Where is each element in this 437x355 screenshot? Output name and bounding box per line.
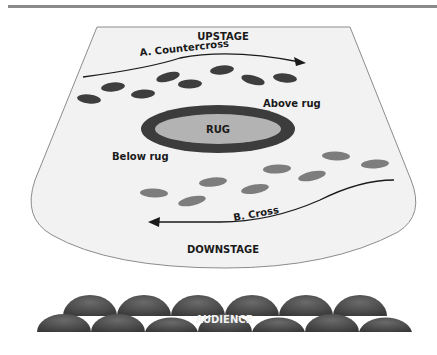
audience-seat-back [225, 295, 279, 316]
audience-seat-front [305, 314, 359, 332]
audience: AUDIENCE [37, 295, 412, 332]
audience-seat-back [117, 295, 171, 316]
below-rug-label: Below rug [112, 151, 169, 162]
rug-label: RUG [206, 124, 230, 135]
audience-seat-front [91, 314, 145, 332]
downstage-label: DOWNSTAGE [187, 244, 259, 255]
above-rug-label: Above rug [263, 98, 321, 109]
audience-seat-front [252, 317, 305, 332]
audience-seat-front [145, 317, 198, 332]
stage-diagram: UPSTAGE A. Countercross Above rug RUG Be… [0, 0, 437, 355]
audience-seat-back [279, 295, 333, 316]
rug: RUG [141, 105, 295, 153]
audience-label: AUDIENCE [196, 314, 253, 325]
audience-seat-back [171, 295, 225, 316]
audience-seat-back [63, 295, 117, 316]
audience-seat-front [359, 317, 412, 332]
audience-seat-front [37, 314, 91, 332]
header-bar [8, 5, 437, 8]
audience-seat-back [333, 295, 387, 316]
